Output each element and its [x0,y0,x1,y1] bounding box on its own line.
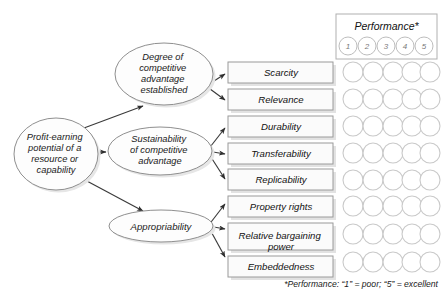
rating-circle-property-rights-1[interactable] [343,196,363,216]
rating-circle-scarcity-5[interactable] [420,62,440,82]
rating-circle-embeddedness-5[interactable] [420,252,440,272]
rating-circle-durability-4[interactable] [402,116,422,136]
rating-circle-transferability-2[interactable] [363,143,383,163]
rating-circle-transferability-4[interactable] [402,143,422,163]
rating-circle-durability-5[interactable] [420,116,440,136]
rating-row-scarcity [343,62,440,82]
performance-scale-label-1: 1 [346,42,350,51]
rating-circle-property-rights-3[interactable] [383,196,403,216]
rating-circle-embeddedness-1[interactable] [343,252,363,272]
rating-circle-relevance-3[interactable] [383,89,403,109]
rating-circle-embeddedness-3[interactable] [383,252,403,272]
rating-circle-embeddedness-4[interactable] [402,252,422,272]
rating-circle-durability-2[interactable] [363,116,383,136]
rating-circle-scarcity-1[interactable] [343,62,363,82]
rating-circle-transferability-5[interactable] [420,143,440,163]
rating-circle-scarcity-3[interactable] [383,62,403,82]
resource-appraisal-diagram: Profit-earning potential of a resource o… [0,0,444,293]
rating-row-transferability [343,143,440,163]
rating-circle-transferability-1[interactable] [343,143,363,163]
performance-footnote: *Performance: “1” = poor; “5” = excellen… [284,279,438,289]
performance-scale-label-3: 3 [384,42,389,51]
performance-scale-label-5: 5 [422,42,427,51]
rating-circle-durability-1[interactable] [343,116,363,136]
performance-header-label: Performance* [354,20,419,32]
rating-circle-property-rights-4[interactable] [402,196,422,216]
rating-circle-property-rights-5[interactable] [420,196,440,216]
rating-circle-replicability-1[interactable] [343,170,363,190]
rating-row-property-rights [343,196,440,216]
rating-row-replicability [343,170,440,190]
rating-row-relative-bargaining-power [343,224,440,244]
rating-circle-relevance-5[interactable] [420,89,440,109]
rating-circle-replicability-3[interactable] [383,170,403,190]
performance-scale-label-2: 2 [364,42,370,51]
rating-circle-relevance-2[interactable] [363,89,383,109]
rating-circle-relative-bargaining-power-2[interactable] [363,224,383,244]
rating-circle-replicability-5[interactable] [420,170,440,190]
rating-circle-relevance-4[interactable] [402,89,422,109]
rating-row-relevance [343,89,440,109]
performance-header: Performance* 1 2 3 4 5 [336,14,437,59]
rating-circle-relative-bargaining-power-4[interactable] [402,224,422,244]
performance-scale-label-4: 4 [403,42,408,51]
rating-row-embeddedness [343,252,440,272]
rating-circle-relative-bargaining-power-5[interactable] [420,224,440,244]
performance-rating-layer: Performance* 1 2 3 4 5 [0,0,444,293]
rating-circle-replicability-2[interactable] [363,170,383,190]
rating-row-durability [343,116,440,136]
rating-circle-replicability-4[interactable] [402,170,422,190]
rating-circle-relative-bargaining-power-3[interactable] [383,224,403,244]
rating-circle-transferability-3[interactable] [383,143,403,163]
rating-circle-durability-3[interactable] [383,116,403,136]
rating-circle-relevance-1[interactable] [343,89,363,109]
rating-circle-relative-bargaining-power-1[interactable] [343,224,363,244]
rating-circle-property-rights-2[interactable] [363,196,383,216]
rating-circle-embeddedness-2[interactable] [363,252,383,272]
rating-circle-scarcity-2[interactable] [363,62,383,82]
rating-circle-scarcity-4[interactable] [402,62,422,82]
